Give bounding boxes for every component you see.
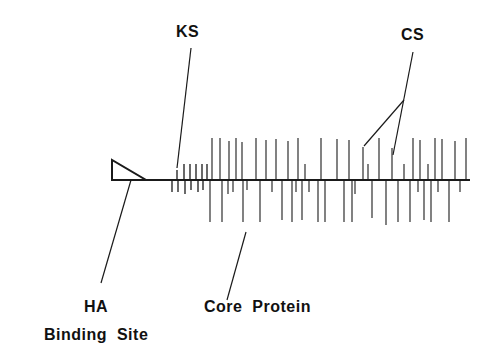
binding-site-label: Binding Site [44, 327, 148, 343]
core-protein-label: Core Protein [204, 299, 311, 315]
cs-label: CS [401, 27, 424, 43]
ha-binding-triangle [112, 160, 146, 180]
label-pointer-lines [101, 48, 413, 300]
chondroitin-sulfate-chains [210, 138, 466, 225]
keratan-sulfate-chains [172, 164, 207, 194]
ks-pointer [177, 48, 191, 168]
cs-pointer-main [393, 52, 413, 155]
cs-pointer-branch [364, 100, 404, 146]
ks-label: KS [176, 24, 199, 40]
core-pointer [227, 232, 246, 300]
ha-binding-domain-triangle [112, 160, 146, 180]
ha-pointer [101, 180, 131, 283]
ha-label: HA [84, 299, 108, 315]
